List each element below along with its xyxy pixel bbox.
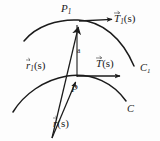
label-vector-t-s: T(s) xyxy=(96,58,114,69)
label-vector-t-s-arg: (s) xyxy=(102,57,114,69)
label-vector-t1-s-base: T xyxy=(114,12,120,24)
label-vector-t-s-symbol: T xyxy=(96,58,102,69)
label-curve-c1-sub: 1 xyxy=(147,67,150,74)
label-vector-r1-s-base: r xyxy=(26,59,30,71)
label-vector-r-s-base: r xyxy=(53,117,57,129)
label-vector-t1-s: T1(s) xyxy=(114,13,135,26)
figure-vector-graphics xyxy=(0,0,160,141)
label-point-p1: P1 xyxy=(61,3,71,16)
label-vector-r1-s-symbol: r xyxy=(26,60,30,71)
label-vector-r-s: r(s) xyxy=(53,118,69,129)
label-vector-t1-s-symbol: T xyxy=(114,13,120,24)
label-point-p1-base: P xyxy=(61,2,68,14)
label-separation-a: a xyxy=(77,47,80,55)
label-curve-c1-base: C xyxy=(140,62,147,73)
vector-t1-s xyxy=(79,19,112,21)
figure-canvas: P1 T1(s) a r1(s) T(s) C1 P C xyxy=(0,0,160,141)
label-curve-c1: C1 xyxy=(140,63,150,75)
label-vector-r1-s: r1(s) xyxy=(26,60,46,73)
label-vector-r1-s-arg: (s) xyxy=(34,59,46,71)
label-vector-r-s-symbol: r xyxy=(53,118,57,129)
label-vector-r-s-arg: (s) xyxy=(57,117,69,129)
label-curve-c: C xyxy=(127,104,134,115)
curve-c xyxy=(13,75,126,112)
label-point-p: P xyxy=(71,83,78,94)
label-vector-t1-s-arg: (s) xyxy=(124,12,136,24)
label-point-p1-sub: 1 xyxy=(68,8,72,16)
label-vector-t-s-base: T xyxy=(96,57,102,69)
